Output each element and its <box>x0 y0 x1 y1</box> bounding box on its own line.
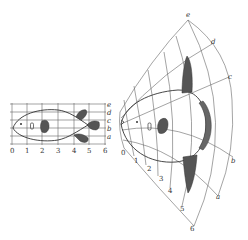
svg-text:d: d <box>107 109 112 117</box>
svg-text:6: 6 <box>103 147 108 155</box>
svg-text:1: 1 <box>25 147 29 155</box>
svg-text:e: e <box>186 11 190 19</box>
anal-fin <box>74 134 88 142</box>
svg-text:1: 1 <box>134 157 138 165</box>
svg-text:5: 5 <box>87 147 91 155</box>
svg-text:4: 4 <box>72 147 77 155</box>
svg-text:5: 5 <box>180 205 184 213</box>
eye-icon <box>136 121 138 123</box>
svg-text:0: 0 <box>121 149 125 157</box>
svg-text:2: 2 <box>147 165 151 173</box>
eye-icon <box>20 123 22 125</box>
svg-text:a: a <box>107 133 111 141</box>
left-row-labels: e d c b a <box>107 101 112 141</box>
svg-text:c: c <box>107 117 111 125</box>
svg-text:c: c <box>228 73 232 81</box>
left-column-labels: 0 1 2 3 4 5 6 <box>10 147 108 155</box>
svg-text:3: 3 <box>159 175 163 183</box>
svg-text:6: 6 <box>190 225 195 233</box>
fish-outline-curvilinear <box>121 56 211 193</box>
rectangular-grid-panel: 0 1 2 3 4 5 6 e d c b a <box>0 0 248 240</box>
tail-fin <box>199 101 211 150</box>
fish-outline-rectangular <box>13 110 99 143</box>
svg-text:e: e <box>107 101 111 109</box>
svg-text:2: 2 <box>40 147 44 155</box>
svg-text:4: 4 <box>168 187 173 195</box>
svg-text:b: b <box>107 125 112 133</box>
svg-text:a: a <box>216 193 220 201</box>
pectoral-fin <box>158 118 168 133</box>
svg-text:3: 3 <box>56 147 60 155</box>
transformation-figure: 0 1 2 3 4 5 6 e d c b a <box>0 0 248 240</box>
svg-text:b: b <box>231 157 236 165</box>
svg-text:d: d <box>211 38 216 46</box>
pectoral-fin <box>41 120 50 132</box>
svg-text:0: 0 <box>10 147 14 155</box>
dorsal-fin <box>182 56 192 93</box>
